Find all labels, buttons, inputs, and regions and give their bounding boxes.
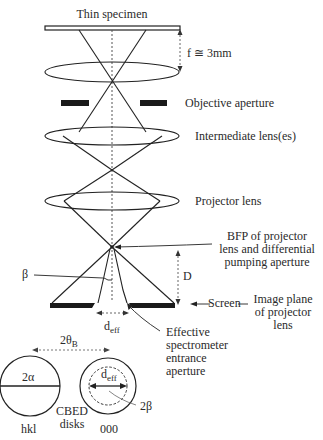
objective-aperture-right [140,100,167,106]
bfp-label: BFP of projector lens and differential p… [217,230,317,269]
beta-label: β [22,268,28,281]
screen-left [50,303,95,308]
screen-label: Screen [208,297,241,310]
effective-aperture-label: Effective spectrometer entrance aperture [166,326,228,378]
tem-ray-diagram [0,0,323,440]
specimen-plate [45,26,180,30]
projector-lens-label: Projector lens [195,195,261,208]
screen-right [129,303,175,308]
objective-aperture-label: Objective aperture [185,97,274,110]
objective-aperture-left [61,100,89,106]
zero-label: 000 [100,423,118,436]
image-plane-label: Image plane of projector lens [252,293,314,332]
specimen-label: Thin specimen [62,8,162,21]
disk-d-eff-label: deff [101,368,117,385]
hkl-label: hkl [21,423,36,436]
two-beta-label: 2β [140,400,152,413]
two-alpha-label: 2α [22,371,34,384]
cbed-label: CBED disks [52,405,92,431]
intermediate-lens-label: Intermediate lens(es) [195,130,296,143]
focal-length-label: f ≅ 3mm [187,47,232,60]
two-theta-label: 2θB [60,334,78,351]
d-eff-label: deff [104,320,120,337]
distance-d-label: D [183,270,192,283]
